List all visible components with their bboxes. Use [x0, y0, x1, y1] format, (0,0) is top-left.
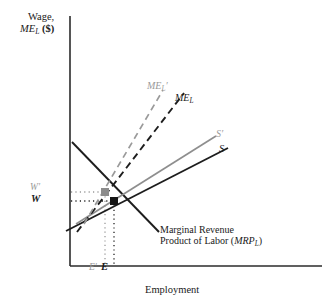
curve-label-me-l-prime: MEL′: [147, 80, 168, 93]
annotation-mrp-l-prefix: Product of Labor (: [160, 235, 234, 246]
y-axis-label-me: ME: [20, 23, 35, 34]
annotation-mrp-l-line2: Product of Labor (MRPL): [160, 235, 262, 248]
curve-label-me-l-subscript: L: [189, 97, 193, 105]
curve-label-me-l: MEL: [175, 92, 193, 105]
y-axis-label-line1: Wage,: [28, 11, 54, 22]
x-axis-label: Employment: [145, 284, 199, 296]
y-value-label-w-prime: W′: [30, 182, 40, 193]
curve-label-me-l-prime-mark: ′: [165, 80, 167, 91]
curve-label-s: S: [219, 143, 224, 155]
figure-canvas: [0, 0, 336, 307]
curve-label-me-l-base: ME: [175, 92, 189, 103]
monopsony-labor-market-figure: Wage, MEL ($) Employment MEL′ MEL S′ S W…: [0, 0, 336, 307]
annotation-mrp-l-suffix: ): [259, 235, 262, 246]
x-value-label-e-prime: E′: [89, 262, 97, 273]
annotation-mrp-l-base: MRP: [234, 235, 255, 246]
marker-equilibrium: [110, 197, 118, 205]
y-axis-label-units: ($): [39, 23, 54, 34]
curve-me-l-prime: [84, 90, 163, 224]
y-value-label-w: W: [31, 193, 40, 205]
curve-label-me-l-prime-base: ME: [147, 80, 161, 91]
curve-supply-s-prime: [76, 136, 216, 224]
y-axis-label: Wage, MEL ($): [20, 11, 54, 36]
annotation-mrp-l: Marginal Revenue Product of Labor (MRPL): [160, 224, 262, 248]
curve-label-s-prime: S′: [216, 128, 223, 139]
y-axis-label-line2: MEL ($): [20, 23, 54, 37]
annotation-mrp-l-line1: Marginal Revenue: [160, 224, 234, 235]
x-value-label-e: E: [101, 261, 108, 273]
marker-equilibrium-prime: [101, 188, 109, 196]
